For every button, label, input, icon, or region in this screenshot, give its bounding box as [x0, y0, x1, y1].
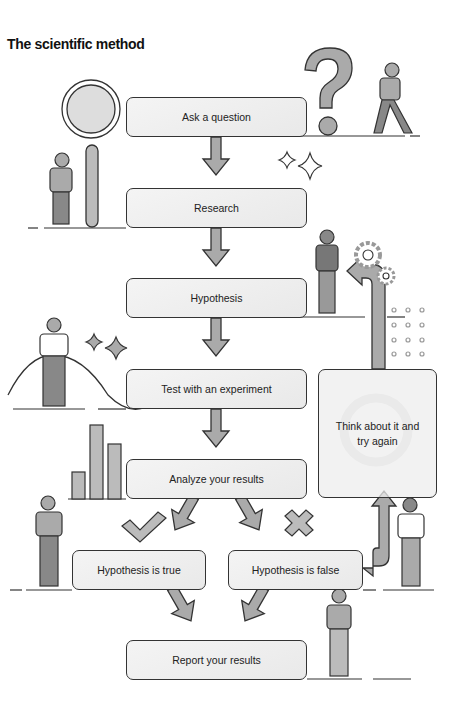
step-think-again: Think about it and try again: [318, 369, 437, 498]
step-analyze: Analyze your results: [126, 459, 307, 499]
x-icon: [285, 510, 313, 536]
magnifier-icon: [62, 80, 120, 227]
arrow-down-icon: [203, 409, 229, 447]
person-figure: [36, 496, 62, 586]
step-ask-question: Ask a question: [126, 97, 307, 137]
step-hypothesis: Hypothesis: [126, 278, 307, 318]
step-research: Research: [126, 188, 307, 228]
person-figure: [327, 589, 351, 676]
person-figure: [316, 230, 338, 313]
question-mark-icon: [305, 48, 352, 108]
person-figure: [374, 63, 412, 133]
arrow-down-icon: [203, 137, 229, 175]
bar-chart-icon: [72, 425, 121, 499]
person-figure: [398, 498, 424, 586]
step-hypothesis-true: Hypothesis is true: [72, 550, 206, 590]
arrow-down-icon: [203, 318, 229, 356]
check-icon: [122, 512, 166, 542]
arrow-down-icon: [203, 228, 229, 266]
person-figure: [50, 153, 72, 224]
step-hypothesis-false: Hypothesis is false: [228, 550, 363, 590]
step-test: Test with an experiment: [126, 369, 307, 409]
step-report: Report your results: [126, 640, 307, 680]
diagram-root: The scientific method Ask a question Res…: [0, 0, 463, 725]
person-figure: [40, 318, 68, 406]
